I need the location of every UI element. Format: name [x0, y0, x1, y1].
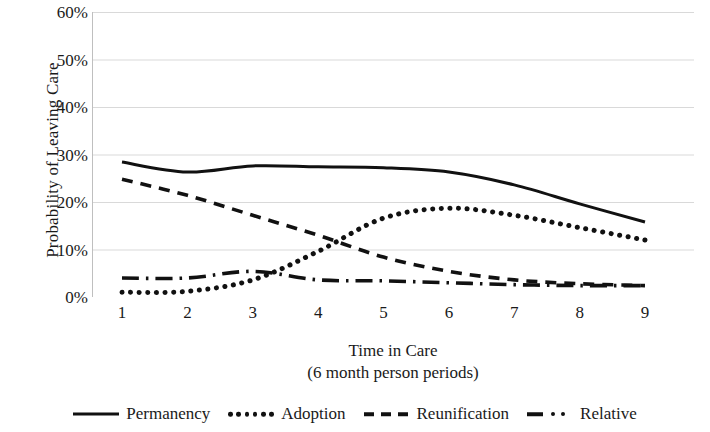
x-axis-title-sub: (6 month person periods) — [92, 362, 694, 384]
x-axis-title-main: Time in Care — [92, 340, 694, 362]
y-tick-label: 20% — [32, 194, 88, 211]
y-tick-label: 40% — [32, 99, 88, 116]
legend-item-relative[interactable]: Relative — [527, 404, 637, 424]
legend-label: Adoption — [281, 404, 345, 424]
x-tick-label: 1 — [102, 303, 142, 323]
legend-label: Relative — [580, 404, 637, 424]
x-tick-label: 2 — [167, 303, 207, 323]
legend-key-solid-icon — [73, 408, 119, 420]
y-tick-label: 10% — [32, 241, 88, 258]
x-tick-label: 7 — [494, 303, 534, 323]
legend-key-dashdot-icon — [527, 408, 573, 420]
x-tick-label: 8 — [560, 303, 600, 323]
x-axis-title: Time in Care (6 month person periods) — [92, 340, 694, 384]
legend-item-reunification[interactable]: Reunification — [364, 404, 510, 424]
plot-area — [92, 12, 694, 297]
series-line-permanency — [122, 162, 645, 222]
x-axis-tick-labels: 123456789 — [92, 303, 694, 327]
legend-key-dotted-icon — [228, 408, 274, 420]
legend-item-adoption[interactable]: Adoption — [228, 404, 345, 424]
x-tick-label: 4 — [298, 303, 338, 323]
plot-svg — [92, 12, 694, 297]
legend-key-dashed-icon — [364, 408, 410, 420]
chart-legend: PermanencyAdoptionReunificationRelative — [0, 404, 710, 424]
y-axis-tick-labels: 0%10%20%30%40%50%60% — [28, 0, 88, 432]
x-tick-label: 9 — [625, 303, 665, 323]
x-tick-label: 3 — [233, 303, 273, 323]
legend-label: Permanency — [126, 404, 210, 424]
series-line-reunification — [122, 179, 645, 285]
line-chart-figure: Probability of Leaving Care 0%10%20%30%4… — [0, 0, 710, 432]
legend-item-permanency[interactable]: Permanency — [73, 404, 210, 424]
y-tick-label: 60% — [32, 4, 88, 21]
x-tick-label: 5 — [364, 303, 404, 323]
legend-label: Reunification — [417, 404, 510, 424]
x-tick-label: 6 — [429, 303, 469, 323]
y-tick-label: 0% — [32, 289, 88, 306]
y-tick-label: 30% — [32, 146, 88, 163]
y-tick-label: 50% — [32, 51, 88, 68]
